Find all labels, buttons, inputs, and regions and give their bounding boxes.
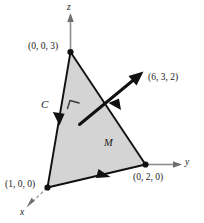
- figure-canvas: z y x (0, 0, 3) (1, 0, 0) (0, 2, 0) (6, …: [0, 0, 204, 223]
- x-axis-arrowhead: [27, 198, 35, 208]
- z-axis-label: z: [67, 3, 71, 13]
- figure-graphics: [0, 0, 204, 223]
- vertex-label-x: (1, 0, 0): [5, 180, 35, 190]
- vertex-dot-y: [142, 161, 148, 167]
- y-axis-label: y: [185, 158, 189, 168]
- vertex-dot-z: [67, 49, 73, 55]
- z-axis-arrowhead: [67, 13, 74, 22]
- curve-label-C: C: [41, 99, 48, 110]
- y-axis-arrowhead: [173, 161, 182, 168]
- x-axis-label: x: [20, 208, 24, 218]
- vertex-label-z: (0, 0, 3): [28, 42, 58, 52]
- vertex-label-y: (0, 2, 0): [133, 173, 163, 183]
- vertex-dot-x: [44, 184, 50, 190]
- normal-vector-label: (6, 3, 2): [148, 73, 178, 83]
- surface-label-M: M: [104, 138, 113, 149]
